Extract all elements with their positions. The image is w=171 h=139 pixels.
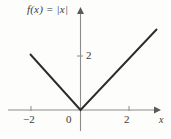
absolute-value-curve: [30, 29, 157, 110]
absolute-value-graph-figure: f(x) = |x| 2 −2 0 2 x: [0, 0, 171, 139]
y-axis-arrow-icon: [77, 7, 84, 14]
function-label-text: f(x) = |x|: [27, 3, 68, 15]
origin-label: 0: [66, 114, 72, 125]
x-axis-name-label: x: [159, 115, 163, 125]
x-axis-tick-label-2: 2: [124, 114, 130, 125]
y-axis-tick-label-2: 2: [86, 50, 92, 61]
x-axis-arrow-icon: [154, 107, 161, 114]
function-label: f(x) = |x|: [27, 4, 68, 15]
x-axis-tick-label-neg2: −2: [23, 114, 35, 125]
